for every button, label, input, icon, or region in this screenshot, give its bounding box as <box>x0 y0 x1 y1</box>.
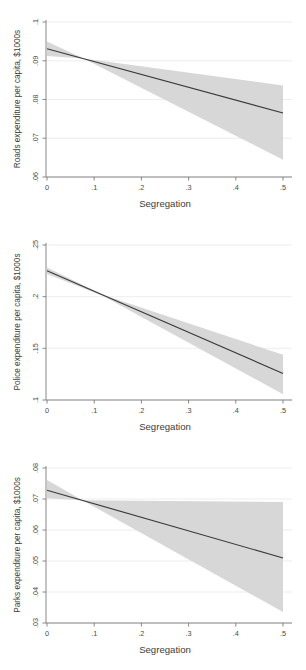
svg-text:.1: .1 <box>91 183 97 192</box>
parks-chart-svg: .08 .07 .06 .05 .04 .03 0 .1 .2 .3 .4 .5… <box>0 446 306 669</box>
svg-text:.5: .5 <box>280 629 286 638</box>
svg-text:.3: .3 <box>186 183 192 192</box>
svg-text:.03: .03 <box>31 618 40 628</box>
svg-text:0: 0 <box>45 406 49 415</box>
parks-xaxis-title: Segregation <box>139 644 191 655</box>
svg-text:.5: .5 <box>280 183 286 192</box>
police-ytick-labels: .25 .2 .15 .1 <box>31 240 40 403</box>
svg-text:.4: .4 <box>233 406 239 415</box>
svg-text:.1: .1 <box>91 629 97 638</box>
parks-xtick-labels: 0 .1 .2 .3 .4 .5 <box>45 629 286 638</box>
svg-text:.4: .4 <box>233 629 239 638</box>
svg-text:.05: .05 <box>31 556 40 566</box>
svg-text:.1: .1 <box>31 19 40 25</box>
svg-text:.25: .25 <box>31 240 40 250</box>
svg-text:.2: .2 <box>138 629 144 638</box>
roads-xtick-labels: 0 .1 .2 .3 .4 .5 <box>45 183 286 192</box>
chart-panel-parks: .08 .07 .06 .05 .04 .03 0 .1 .2 .3 .4 .5… <box>0 446 306 669</box>
svg-text:.3: .3 <box>186 406 192 415</box>
parks-yaxis-title: Parks expenditure per capita, $1000s <box>13 477 22 613</box>
figure-page: .1 .09 .08 .07 .06 0 .1 .2 .3 .4 .5 Segr… <box>0 0 306 670</box>
svg-text:.06: .06 <box>31 172 40 182</box>
svg-text:.07: .07 <box>31 494 40 504</box>
svg-text:0: 0 <box>45 629 49 638</box>
svg-text:0: 0 <box>45 183 49 192</box>
svg-text:.07: .07 <box>31 133 40 143</box>
svg-text:.4: .4 <box>233 183 239 192</box>
parks-ytick-labels: .08 .07 .06 .05 .04 .03 <box>31 463 40 628</box>
chart-panel-roads: .1 .09 .08 .07 .06 0 .1 .2 .3 .4 .5 Segr… <box>0 0 306 223</box>
police-fit-line <box>47 271 283 374</box>
svg-text:.1: .1 <box>91 406 97 415</box>
svg-text:.08: .08 <box>31 463 40 473</box>
svg-text:.3: .3 <box>186 629 192 638</box>
roads-ci-band <box>47 42 283 160</box>
police-xtick-labels: 0 .1 .2 .3 .4 .5 <box>45 406 286 415</box>
svg-text:.08: .08 <box>31 94 40 104</box>
svg-text:.2: .2 <box>138 183 144 192</box>
svg-text:.09: .09 <box>31 56 40 66</box>
svg-text:.5: .5 <box>280 406 286 415</box>
police-yaxis-title: Police expenditure per capita, $1000s <box>13 253 22 390</box>
roads-xaxis-title: Segregation <box>139 198 191 209</box>
svg-text:.2: .2 <box>138 406 144 415</box>
police-chart-svg: .25 .2 .15 .1 0 .1 .2 .3 .4 .5 Segregati… <box>0 223 306 446</box>
svg-text:.2: .2 <box>31 294 40 300</box>
svg-text:.1: .1 <box>31 397 40 403</box>
svg-text:.04: .04 <box>31 587 40 597</box>
roads-ytick-labels: .1 .09 .08 .07 .06 <box>31 19 40 182</box>
svg-text:.15: .15 <box>31 343 40 353</box>
roads-yaxis-title: Roads expenditure per capita, $1000s <box>13 30 22 168</box>
roads-chart-svg: .1 .09 .08 .07 .06 0 .1 .2 .3 .4 .5 Segr… <box>0 0 306 223</box>
police-xaxis-title: Segregation <box>139 421 191 432</box>
chart-panel-police: .25 .2 .15 .1 0 .1 .2 .3 .4 .5 Segregati… <box>0 223 306 446</box>
svg-text:.06: .06 <box>31 525 40 535</box>
